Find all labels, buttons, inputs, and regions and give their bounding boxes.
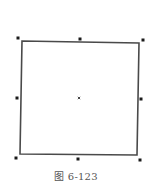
center-marker-icon [78, 97, 80, 99]
resize-handle-top-left[interactable] [17, 37, 20, 40]
resize-handle-bottom-right[interactable] [139, 159, 142, 162]
resize-handle-top-right[interactable] [142, 39, 145, 42]
resize-handle-middle-right[interactable] [140, 98, 143, 101]
resize-handle-bottom-left[interactable] [15, 157, 18, 160]
resize-handle-middle-left[interactable] [16, 97, 19, 100]
figure-canvas [0, 0, 152, 189]
resize-handle-bottom-middle[interactable] [77, 158, 80, 161]
resize-handle-top-middle[interactable] [79, 38, 82, 41]
figure-caption: 图 6-123 [0, 168, 152, 183]
